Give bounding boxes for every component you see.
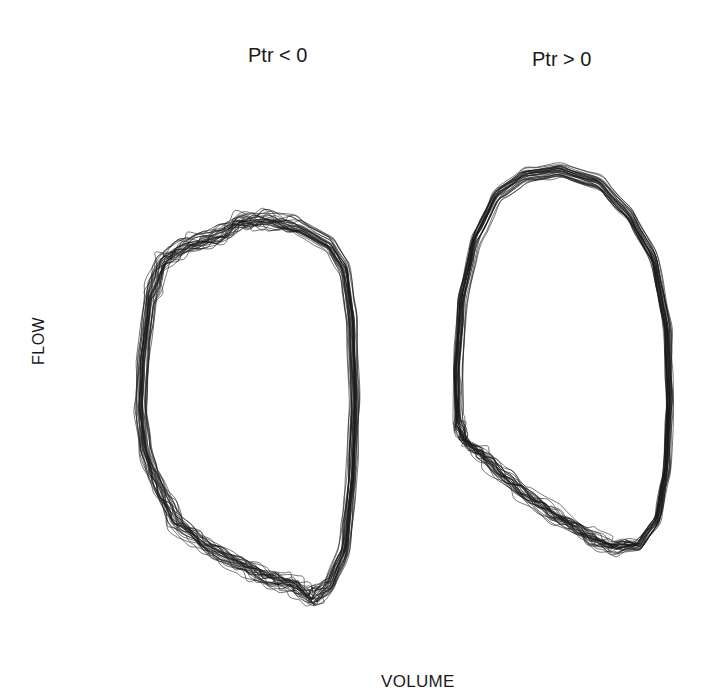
flow-volume-loop xyxy=(139,219,352,591)
loops-panel-right xyxy=(453,163,673,557)
flow-volume-loop xyxy=(139,214,360,601)
flow-volume-loop xyxy=(140,215,357,604)
flow-volume-loop xyxy=(145,221,356,599)
flow-volume-loop xyxy=(139,212,355,601)
flow-volume-loop xyxy=(458,165,672,547)
flow-volume-loop xyxy=(136,215,357,605)
flow-volume-loop xyxy=(142,221,353,599)
loops-panel-left xyxy=(134,208,360,606)
flow-volume-loop xyxy=(145,224,356,599)
flow-volume-loop xyxy=(147,221,356,595)
plot-area xyxy=(0,0,711,692)
flow-volume-loop xyxy=(142,215,358,600)
flow-volume-loop xyxy=(142,220,353,596)
flow-volume-loop xyxy=(140,222,352,603)
flow-volume-loop xyxy=(142,217,354,598)
flow-volume-loop xyxy=(139,220,355,606)
flow-volume-loop xyxy=(141,220,352,596)
flow-volume-loop xyxy=(134,216,355,606)
flow-volume-loop xyxy=(141,209,359,597)
flow-volume-loop xyxy=(139,215,357,602)
flow-volume-loop xyxy=(137,217,353,603)
flow-volume-loop xyxy=(144,222,355,599)
flow-volume-loop xyxy=(136,210,357,605)
flow-volume-loop xyxy=(141,224,350,589)
flow-volume-loop xyxy=(140,220,352,596)
flow-volume-loop xyxy=(145,219,354,591)
flow-volume-loop xyxy=(142,221,358,604)
flow-volume-loop xyxy=(140,211,359,599)
flow-volume-loop xyxy=(141,225,349,595)
